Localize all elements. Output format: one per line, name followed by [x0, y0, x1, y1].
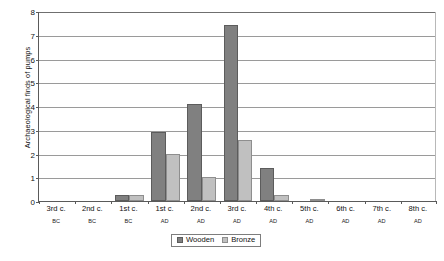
bar-group: [184, 12, 220, 201]
x-tick-mark-2: [111, 201, 112, 204]
x-tick-mark-3: [148, 201, 149, 204]
x-label-era: AD: [364, 219, 400, 225]
legend-label: Wooden: [186, 236, 214, 244]
x-tick-mark-1: [75, 201, 76, 204]
x-tick-mark-11: [436, 201, 437, 204]
x-label-century: 3rd c.: [47, 204, 66, 213]
x-label-century: 5th c.: [300, 204, 319, 213]
bars-layer: [39, 12, 436, 201]
x-axis-label-5: 3rd c.AD: [219, 205, 255, 225]
bar-group: [401, 12, 437, 201]
bar-bronze-4: [202, 177, 216, 201]
x-tick-mark-5: [220, 201, 221, 204]
bar-group: [256, 12, 292, 201]
bar-group: [75, 12, 111, 201]
x-label-century: 7th c.: [372, 204, 391, 213]
x-axis-label-1: 2nd c.BC: [74, 205, 110, 225]
legend-swatch-icon: [222, 237, 228, 243]
bar-bronze-5: [238, 140, 252, 201]
x-axis-label-0: 3rd c.BC: [38, 205, 74, 225]
bar-wooden-2: [115, 195, 129, 201]
y-tick-label-0: 0: [31, 198, 35, 207]
x-label-century: 6th c.: [336, 204, 355, 213]
bar-group: [220, 12, 256, 201]
x-label-era: AD: [291, 219, 327, 225]
x-label-era: BC: [74, 219, 110, 225]
plot-area: 012345678: [38, 12, 436, 202]
legend-entry-bronze: Bronze: [222, 236, 255, 244]
x-label-century: 1st c.: [119, 204, 137, 213]
y-tick-label-6: 6: [31, 55, 35, 64]
bar-wooden-3: [151, 132, 165, 201]
x-label-era: AD: [147, 219, 183, 225]
bar-group: [39, 12, 75, 201]
x-label-era: AD: [183, 219, 219, 225]
x-label-era: BC: [38, 219, 74, 225]
y-tick-label-4: 4: [31, 103, 35, 112]
x-axis-label-4: 2nd c.AD: [183, 205, 219, 225]
x-axis-label-6: 4th c.AD: [255, 205, 291, 225]
x-axis-label-9: 7th c.AD: [364, 205, 400, 225]
x-axis-label-3: 1st c.AD: [147, 205, 183, 225]
y-tick-label-3: 3: [31, 126, 35, 135]
bar-bronze-7: [310, 199, 324, 201]
bar-group: [292, 12, 328, 201]
x-tick-mark-0: [39, 201, 40, 204]
x-tick-mark-10: [401, 201, 402, 204]
x-axis-labels: 3rd c.BC2nd c.BC1st c.BC1st c.AD2nd c.AD…: [38, 205, 436, 233]
x-tick-mark-7: [292, 201, 293, 204]
x-label-century: 3rd c.: [227, 204, 246, 213]
x-tick-mark-6: [256, 201, 257, 204]
y-tick-label-8: 8: [31, 8, 35, 17]
bar-wooden-5: [224, 25, 238, 201]
y-tick-label-2: 2: [31, 150, 35, 159]
legend-label: Bronze: [231, 236, 255, 244]
x-tick-mark-4: [184, 201, 185, 204]
y-tick-label-5: 5: [31, 79, 35, 88]
x-label-era: AD: [400, 219, 436, 225]
bar-bronze-3: [166, 154, 180, 202]
x-label-century: 1st c.: [156, 204, 174, 213]
legend-swatch-icon: [177, 237, 183, 243]
x-axis-label-8: 6th c.AD: [327, 205, 363, 225]
chart-figure: Archaeological finds of pumps 012345678 …: [0, 0, 444, 261]
bar-group: [148, 12, 184, 201]
x-tick-mark-9: [365, 201, 366, 204]
x-tick-mark-8: [328, 201, 329, 204]
x-label-century: 8th c.: [409, 204, 428, 213]
bar-wooden-4: [187, 104, 201, 201]
x-label-century: 2nd c.: [190, 204, 211, 213]
x-label-era: AD: [255, 219, 291, 225]
bar-group: [365, 12, 401, 201]
x-axis-label-10: 8th c.AD: [400, 205, 436, 225]
y-tick-label-7: 7: [31, 31, 35, 40]
bar-wooden-6: [260, 168, 274, 201]
x-axis-label-7: 5th c.AD: [291, 205, 327, 225]
x-label-era: AD: [327, 219, 363, 225]
y-tick-label-1: 1: [31, 174, 35, 183]
chart-legend: WoodenBronze: [171, 234, 261, 247]
x-label-century: 4th c.: [264, 204, 283, 213]
legend-entry-wooden: Wooden: [177, 236, 214, 244]
x-label-century: 2nd c.: [82, 204, 103, 213]
bar-bronze-6: [274, 195, 288, 201]
x-label-era: BC: [110, 219, 146, 225]
x-axis-label-2: 1st c.BC: [110, 205, 146, 225]
bar-bronze-2: [129, 195, 143, 201]
bar-group: [111, 12, 147, 201]
bar-group: [328, 12, 364, 201]
x-label-era: AD: [219, 219, 255, 225]
